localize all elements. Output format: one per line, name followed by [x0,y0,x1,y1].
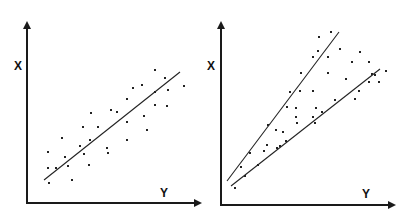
data-point [48,182,50,184]
data-point [167,89,169,91]
data-point [164,77,166,79]
data-point [334,99,336,101]
data-point [64,156,66,158]
data-point [312,90,314,92]
data-point [276,147,278,149]
data-point [267,124,269,126]
data-point [166,105,168,107]
data-point [354,98,356,100]
right-boundary-lines [227,32,380,186]
data-point [47,167,49,169]
data-point [90,112,92,114]
data-point [97,126,99,128]
data-point [321,111,323,113]
left-regression-line [44,72,180,180]
data-point [83,153,85,155]
data-point [318,36,320,38]
data-point [132,87,134,89]
data-point [385,70,387,72]
data-point [266,144,268,146]
data-point [315,107,317,109]
data-point [312,116,314,118]
data-point [295,116,297,118]
data-point [154,104,156,106]
data-point [126,98,128,100]
data-point [71,179,73,181]
data-point [126,139,128,141]
data-point [55,167,57,169]
right-horizontal-axis-label: Y [362,187,370,201]
data-point [330,31,332,33]
data-point [374,74,376,76]
data-point [295,107,297,109]
data-point [82,126,84,128]
data-point [279,145,281,147]
data-point [368,81,370,83]
data-point [358,90,360,92]
left-horizontal-axis-label: Y [160,186,168,200]
data-point [183,85,185,87]
data-point [146,129,148,131]
data-point [154,91,156,93]
data-point [263,150,265,152]
data-point [88,164,90,166]
data-point [249,152,251,154]
data-point [300,72,302,74]
data-point [110,109,112,111]
data-point [359,51,361,53]
data-point [317,50,319,52]
data-point [234,187,236,189]
left-vertical-axis-label: X [14,59,22,73]
data-point [106,147,108,149]
data-point [275,129,277,131]
data-point [240,166,242,168]
data-point [67,165,69,167]
data-point [378,81,380,83]
data-point [371,73,373,75]
data-point [299,90,301,92]
data-point [289,91,291,93]
data-point [116,111,118,113]
data-point [143,115,145,117]
data-point [126,121,128,123]
data-point [312,56,314,58]
data-point [79,145,81,147]
data-point [351,61,353,63]
fit-line [227,32,339,181]
fit-line [44,72,180,180]
data-point [327,56,329,58]
data-point [345,78,347,80]
chart-canvas: X Y X Y [0,0,415,215]
data-point [154,69,156,71]
data-point [314,122,316,124]
data-point [327,72,329,74]
data-point [339,48,341,50]
data-point [141,84,143,86]
data-point [368,61,370,63]
data-point [107,152,109,154]
data-point [47,151,49,153]
left-scatter-points [47,69,185,184]
left-panel: X Y [14,24,199,203]
data-point [244,175,246,177]
data-point [89,139,91,141]
data-point [257,164,259,166]
fit-line [231,69,380,186]
right-vertical-axis-label: X [207,59,215,73]
right-panel: X Y [207,24,393,205]
data-point [61,137,63,139]
data-point [286,106,288,108]
data-point [296,122,298,124]
data-point [282,131,284,133]
data-point [285,140,287,142]
